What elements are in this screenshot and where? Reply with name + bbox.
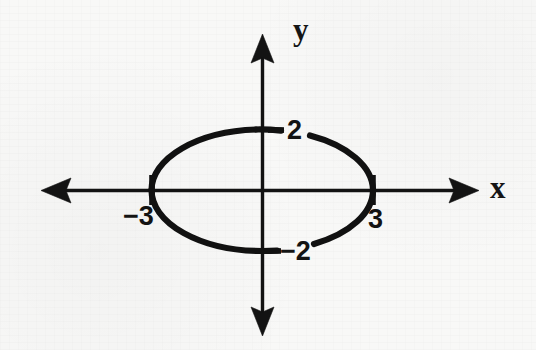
y-axis [251, 34, 274, 336]
coordinate-plane-plot [0, 0, 536, 350]
ellipse-arc-lower-right [314, 190, 373, 244]
label-x-intercept-negative: −3 [123, 203, 154, 230]
x-axis [41, 178, 479, 203]
label-x-intercept-positive: 3 [368, 206, 383, 233]
x-axis-label: x [490, 172, 506, 203]
label-y-intercept-positive: 2 [287, 117, 302, 144]
ellipse-arc-upper-right [310, 136, 373, 191]
ellipse-arc-lower-left [152, 190, 263, 251]
y-axis-label: y [293, 14, 309, 45]
ellipse-figure: y x 2 −2 −3 3 [0, 0, 536, 350]
ellipse-arc-upper-left [152, 130, 257, 191]
label-y-intercept-negative: −2 [280, 238, 311, 265]
